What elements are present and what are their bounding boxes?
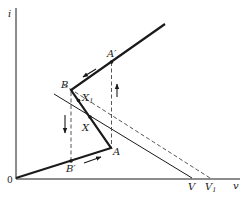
label-V1-sub: 1: [212, 186, 216, 194]
point-X: [88, 115, 92, 119]
point-X1: [77, 99, 81, 103]
x-axis-label: v: [233, 180, 239, 191]
label-X1: X1: [81, 92, 93, 105]
axes: [16, 8, 240, 179]
label-X: X: [81, 122, 90, 133]
arrow-along-lower-branch-icon: [84, 157, 101, 163]
hysteresis-diagram: i 0 v A′ B X1 X A B′ V V1: [0, 0, 246, 206]
label-X1-sub: 1: [89, 97, 93, 105]
label-V1: V1: [205, 181, 216, 194]
label-A-prime: A′: [106, 48, 117, 59]
y-axis-label: i: [8, 8, 11, 19]
origin-label: 0: [7, 175, 13, 185]
label-B: B: [60, 79, 68, 90]
label-V: V: [188, 181, 197, 192]
point-A-prime: [110, 60, 114, 64]
label-A: A: [112, 146, 120, 157]
label-B-prime: B′: [65, 163, 76, 174]
